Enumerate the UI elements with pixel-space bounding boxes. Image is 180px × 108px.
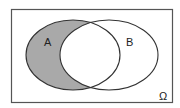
set-b-label: B <box>126 36 133 48</box>
universe-label: Ω <box>159 90 167 102</box>
set-a-label: A <box>44 36 52 48</box>
venn-diagram: A B Ω <box>0 0 180 108</box>
